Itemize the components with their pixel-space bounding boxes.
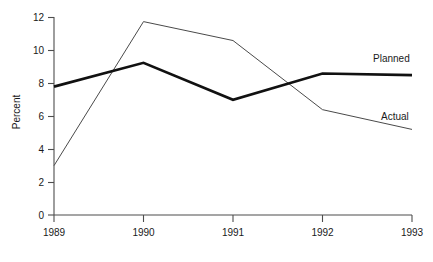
x-tick-label-1993: 1993 [401, 227, 424, 238]
y-tick-label-12: 12 [33, 12, 45, 23]
series-label-planned: Planned [373, 53, 410, 64]
series-line-actual [54, 22, 412, 166]
y-tick-label-10: 10 [33, 45, 45, 56]
x-tick-label-1991: 1991 [222, 227, 245, 238]
x-tick-label-1990: 1990 [132, 227, 155, 238]
series-line-planned [54, 63, 412, 100]
x-tick-label-1989: 1989 [43, 227, 66, 238]
y-tick-label-4: 4 [38, 144, 44, 155]
chart-plot-area: 12 10 8 6 4 2 0 Percent 1989 1990 1991 1… [0, 0, 433, 262]
x-axis-ticks [54, 215, 412, 222]
y-axis-ticks [48, 18, 54, 216]
y-axis-title: Percent [11, 95, 22, 130]
y-tick-label-0: 0 [38, 210, 44, 221]
y-tick-label-8: 8 [38, 78, 44, 89]
x-tick-label-1992: 1992 [311, 227, 334, 238]
series-label-actual: Actual [381, 111, 409, 122]
line-chart: 12 10 8 6 4 2 0 Percent 1989 1990 1991 1… [0, 0, 433, 262]
y-tick-label-6: 6 [38, 111, 44, 122]
y-tick-label-2: 2 [38, 177, 44, 188]
